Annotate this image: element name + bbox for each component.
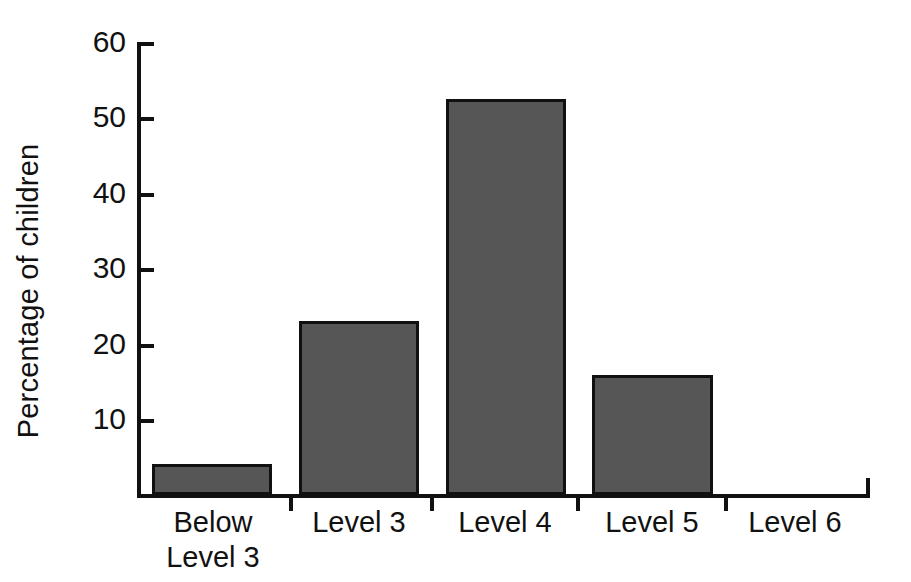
y-tick-label-40: 40 <box>62 178 126 208</box>
bar-chart: Percentage of children 60 50 40 30 20 10… <box>0 0 911 582</box>
x-tick-5 <box>866 478 870 495</box>
y-tick-20 <box>137 344 154 348</box>
y-tick-30 <box>137 268 154 272</box>
bar-level-4 <box>446 99 566 495</box>
y-axis-title: Percentage of children <box>0 0 56 582</box>
x-label-below-level-3: Below Level 3 <box>142 505 284 575</box>
y-tick-label-30: 30 <box>62 253 126 283</box>
y-tick-10 <box>137 419 154 423</box>
y-tick-label-50: 50 <box>62 102 126 132</box>
bar-level-5 <box>592 375 713 495</box>
y-tick-label-20: 20 <box>62 329 126 359</box>
y-tick-50 <box>137 117 154 121</box>
bar-below-level-3 <box>152 464 272 495</box>
x-label-level-6: Level 6 <box>724 505 866 540</box>
bar-level-3 <box>299 321 419 495</box>
y-tick-60 <box>137 42 154 46</box>
y-tick-label-10: 10 <box>62 404 126 434</box>
x-label-level-5: Level 5 <box>581 505 723 540</box>
x-tick-3 <box>576 494 580 511</box>
x-label-level-4: Level 4 <box>434 505 576 540</box>
y-tick-40 <box>137 193 154 197</box>
y-tick-label-60: 60 <box>62 27 126 57</box>
x-label-level-3: Level 3 <box>288 505 430 540</box>
